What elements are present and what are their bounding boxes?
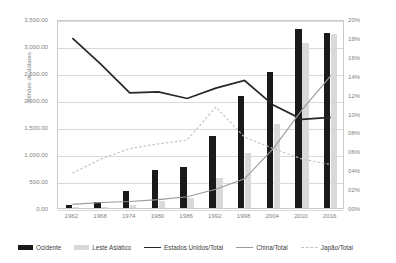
x-axis-tick-label: 2004 <box>258 212 287 219</box>
y-axis-label: Bilhões de dólares <box>26 32 32 122</box>
y-axis-right-tick-label: 20% <box>348 17 388 23</box>
legend-item[interactable]: Japão/Total <box>301 244 353 251</box>
y-axis-right-tick-label: 08% <box>348 130 388 136</box>
x-axis-tick-label: 1998 <box>229 212 258 219</box>
y-axis-tick-label: 500.00 <box>0 179 48 185</box>
x-axis-tick-label: 2010 <box>287 212 316 219</box>
legend-item[interactable]: China/Total <box>236 244 288 251</box>
y-axis-tick-label: 3,000.00 <box>0 44 48 50</box>
legend-swatch-icon <box>74 245 89 250</box>
line-series-group <box>58 21 345 210</box>
legend-line-icon <box>236 247 253 248</box>
x-axis-tick-label: 1992 <box>201 212 230 219</box>
y-axis-tick-label: 1,500.00 <box>0 125 48 131</box>
y-axis-right-tick-label: 06% <box>348 149 388 155</box>
y-axis-right-tick-label: 14% <box>348 74 388 80</box>
gridline <box>58 210 343 211</box>
legend-line-icon <box>144 247 161 248</box>
y-axis-right-tick-label: 04% <box>348 168 388 174</box>
y-axis-tick-label: 3,500.00 <box>0 17 48 23</box>
y-axis-right-tick-label: 02% <box>348 187 388 193</box>
y-axis-right-tick-label: 12% <box>348 93 388 99</box>
x-axis-tick-label: 1968 <box>86 212 115 219</box>
legend-swatch-icon <box>18 245 33 250</box>
legend-label: Estados Unidos/Total <box>164 244 223 251</box>
x-axis-tick-label: 1962 <box>57 212 86 219</box>
legend-label: Japão/Total <box>321 244 353 251</box>
y-axis-right-tick-label: 00% <box>348 206 388 212</box>
y-axis-tick-label: 0.00 <box>0 206 48 212</box>
y-axis-right-tick-label: 16% <box>348 55 388 61</box>
x-axis-tick-label: 2016 <box>315 212 344 219</box>
x-axis-tick-label: 1986 <box>172 212 201 219</box>
chart-container: 0.00500.001,000.001,500.002,000.002,500.… <box>0 0 396 263</box>
chart-legend: OcidenteLeste AsiáticoEstados Unidos/Tot… <box>18 240 390 254</box>
legend-item[interactable]: Ocidente <box>18 244 61 251</box>
legend-label: China/Total <box>256 244 288 251</box>
legend-label: Ocidente <box>36 244 61 251</box>
line-china-total <box>72 76 330 205</box>
y-axis-right-tick-label: 10% <box>348 112 388 118</box>
legend-item[interactable]: Leste Asiático <box>74 244 131 251</box>
legend-label: Leste Asiático <box>92 244 131 251</box>
legend-item[interactable]: Estados Unidos/Total <box>144 244 223 251</box>
line-estados-unidos-total <box>72 38 330 119</box>
y-axis-tick-label: 1,000.00 <box>0 152 48 158</box>
line-jap-o-total <box>72 107 330 173</box>
plot-area <box>57 20 344 209</box>
x-axis-tick-label: 1974 <box>114 212 143 219</box>
legend-line-icon <box>301 247 318 248</box>
x-axis-tick-label: 1980 <box>143 212 172 219</box>
y-axis-right-tick-label: 18% <box>348 36 388 42</box>
